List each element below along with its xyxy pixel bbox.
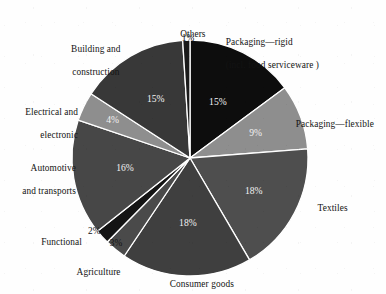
slice-label-textiles: Textiles [308,192,386,226]
slice-label-functional-text: Functional [41,237,82,247]
slice-value-label: 4% [106,114,119,125]
slice-value-label: 15% [209,96,227,107]
slice-label-electrical-line2: electronic [40,130,78,140]
slice-label-agriculture: Agriculture [55,256,133,290]
slice-label-textiles-text: Textiles [318,203,348,213]
slice-label-automotive: Automotive and transports [0,152,76,208]
slice-label-consumer-goods-text: Consumer goods [170,279,234,289]
slice-label-automotive-line2: and transports [22,186,76,196]
slice-value-label: 18% [245,185,263,196]
slice-value-label: 9% [249,127,262,138]
slice-label-building-line2: construction [72,67,119,77]
slice-label-agriculture-text: Agriculture [77,267,121,277]
slice-label-electrical-line1: Electrical and [25,107,78,117]
slice-label-functional: Functional [6,226,82,260]
pie-chart-figure: 15%9%18%18%16%4%15% Others 1% Packaging—… [0,0,386,294]
slice-label-packaging-rigid-line1: Packaging—rigid [226,37,293,47]
slice-label-packaging-rigid: Packaging—rigid (incl. food serviceware … [216,26,382,82]
slice-label-automotive-line1: Automotive [31,163,76,173]
slice-label-consumer-goods: Consumer goods [142,268,252,294]
slice-label-packaging-flexible-text: Packaging—flexible [296,119,374,129]
slice-value-label: 16% [116,162,134,173]
slice-value-label: 18% [179,217,197,228]
slice-value-label: 15% [147,93,165,104]
slice-label-packaging-rigid-line2: (incl. food serviceware ) [226,60,319,70]
slice-pct-functional: 2% [88,226,110,237]
slice-label-packaging-flexible: Packaging—flexible [286,108,386,142]
slice-label-building-line1: Building and [71,44,121,54]
slice-pct-others: 1% [174,33,202,44]
slice-pct-agriculture: 3% [104,238,128,249]
slice-label-electrical: Electrical and electronic [0,96,78,152]
slice-label-building: Building and construction [48,33,134,89]
